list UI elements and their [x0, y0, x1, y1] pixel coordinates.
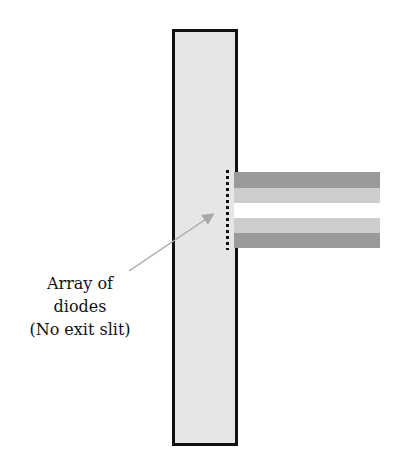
diode-array-label: Array of diodes (No exit slit) [20, 272, 140, 341]
label-line-1: Array of [20, 272, 140, 295]
label-line-2: diodes [20, 295, 140, 318]
arrow-icon [0, 0, 401, 467]
label-line-3: (No exit slit) [20, 318, 140, 341]
